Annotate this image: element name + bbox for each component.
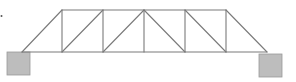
supports [7,52,282,77]
right-end-post [226,10,267,52]
left-support [7,52,30,75]
diagonal-member-0 [62,10,103,52]
marker-dot [1,15,3,17]
right-support [259,54,282,77]
truss-members [22,10,267,52]
diagonal-member-3 [185,10,226,52]
left-end-post [22,10,62,52]
diagonal-member-2 [144,10,185,52]
diagonal-member-1 [103,10,144,52]
truss-bridge-diagram [0,0,296,82]
